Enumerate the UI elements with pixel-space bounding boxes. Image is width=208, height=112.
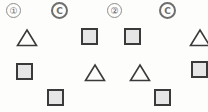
square-marker[interactable] xyxy=(154,89,171,106)
triangle-marker[interactable] xyxy=(16,28,38,47)
badge-label: C xyxy=(164,5,171,15)
square-marker[interactable] xyxy=(191,61,208,78)
badge-circled-number-1[interactable]: ① xyxy=(6,3,21,18)
triangle-marker[interactable] xyxy=(189,28,208,47)
badge-circled-c-2[interactable]: C xyxy=(159,2,176,19)
square-marker[interactable] xyxy=(124,28,141,45)
badge-circled-number-2[interactable]: ② xyxy=(107,3,122,18)
badge-label: C xyxy=(56,5,63,15)
badge-circled-c-1[interactable]: C xyxy=(51,2,68,19)
marker-canvas: ① C ② C xyxy=(0,0,208,112)
square-marker[interactable] xyxy=(16,63,33,80)
badge-label: ② xyxy=(110,5,118,15)
triangle-marker[interactable] xyxy=(84,63,106,82)
badge-label: ① xyxy=(9,5,17,15)
square-marker[interactable] xyxy=(47,89,64,106)
square-marker[interactable] xyxy=(81,28,98,45)
triangle-marker[interactable] xyxy=(129,63,151,82)
